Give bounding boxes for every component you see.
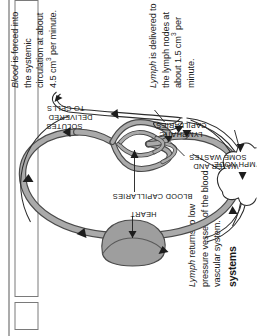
- label-lymph-node: LYMPH NODE: [213, 160, 256, 169]
- caption-blood-forced-superscript: 3: [45, 57, 52, 61]
- circulation-diagram: HEART BLOOD CAPILLARIES SOLUTES DELIVERE…: [6, 88, 256, 278]
- label-lymphatic-line2: CAPILLARIES: [156, 121, 206, 130]
- page-canvas: systems Lymph returns to low pressure ve…: [0, 0, 257, 336]
- label-solutes-line1: SOLUTES: [46, 122, 82, 131]
- lymph-node-shape: [217, 143, 256, 205]
- label-solutes-line2: DELIVERED: [48, 113, 92, 122]
- caption-lymph-delivered-superscript: 3: [170, 33, 177, 37]
- label-blood-capillaries: BLOOD CAPILLARIES: [112, 192, 192, 201]
- caption-lymph-delivered-lead: Lymph: [147, 61, 157, 88]
- caption-blood-forced: Blood is forced into the systemic circul…: [8, 0, 58, 88]
- caption-blood-forced-lead: Blood: [9, 65, 19, 88]
- empty-box-small: [14, 302, 38, 330]
- label-lymphatic-line1: LYMPHATIC: [158, 130, 202, 139]
- label-solutes-line3: TO CELLS: [46, 104, 84, 113]
- caption-blood-forced-body-2: per minute.: [47, 10, 57, 57]
- label-heart: HEART: [130, 210, 156, 219]
- heart-shape: [101, 220, 164, 266]
- caption-lymph-delivered: Lymph is delivered to the lymph nodes at…: [146, 0, 196, 88]
